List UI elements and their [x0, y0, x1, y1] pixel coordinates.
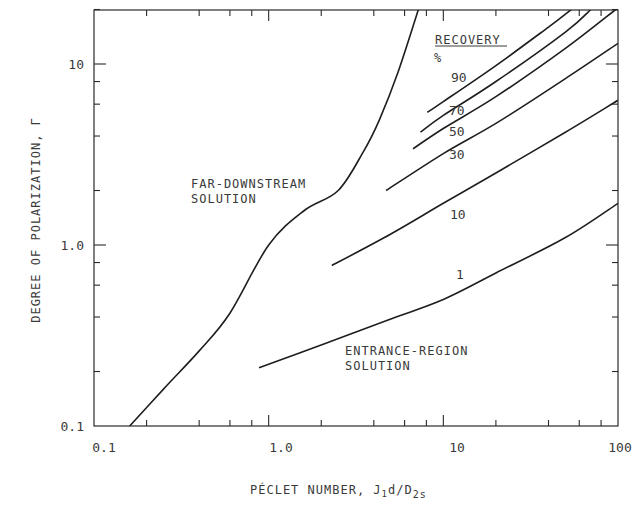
polarization-chart: 10 1.0 0.1 0.1 1.0 10 100 DEGREE OF POLA…	[0, 0, 641, 508]
x-tick-1: 1.0	[269, 440, 292, 455]
far-downstream-label-line2: SOLUTION	[191, 192, 257, 206]
recovery-label-50: 50	[449, 124, 465, 139]
entrance-region-label: ENTRANCE-REGION	[345, 344, 468, 358]
y-tick-0.1: 0.1	[61, 419, 84, 434]
x-tick-100: 100	[608, 440, 631, 455]
y-axis-label: DEGREE OF POLARIZATION, Γ	[29, 117, 43, 323]
x-axis-label: PÉCLET NUMBER, J1d/D2s	[250, 482, 427, 500]
curve-10	[332, 100, 618, 265]
curve-70	[421, 10, 591, 133]
y-tick-1: 1.0	[61, 238, 84, 253]
far-downstream-label: FAR-DOWNSTREAM	[191, 177, 306, 191]
y-tick-10: 10	[68, 57, 84, 72]
curve-90	[427, 10, 571, 113]
recovery-label-90: 90	[451, 70, 467, 85]
recovery-label-1: 1	[456, 267, 464, 282]
recovery-unit: %	[434, 51, 442, 65]
recovery-label-10: 10	[450, 207, 466, 222]
recovery-label-30: 30	[449, 147, 465, 162]
recovery-title: RECOVERY	[435, 33, 501, 47]
entrance-region-label-line2: SOLUTION	[345, 359, 411, 373]
curve-30	[386, 43, 618, 190]
curve-50	[413, 10, 616, 149]
x-tick-0.1: 0.1	[92, 440, 115, 455]
x-tick-10: 10	[449, 440, 465, 455]
recovery-label-70: 70	[449, 103, 465, 118]
